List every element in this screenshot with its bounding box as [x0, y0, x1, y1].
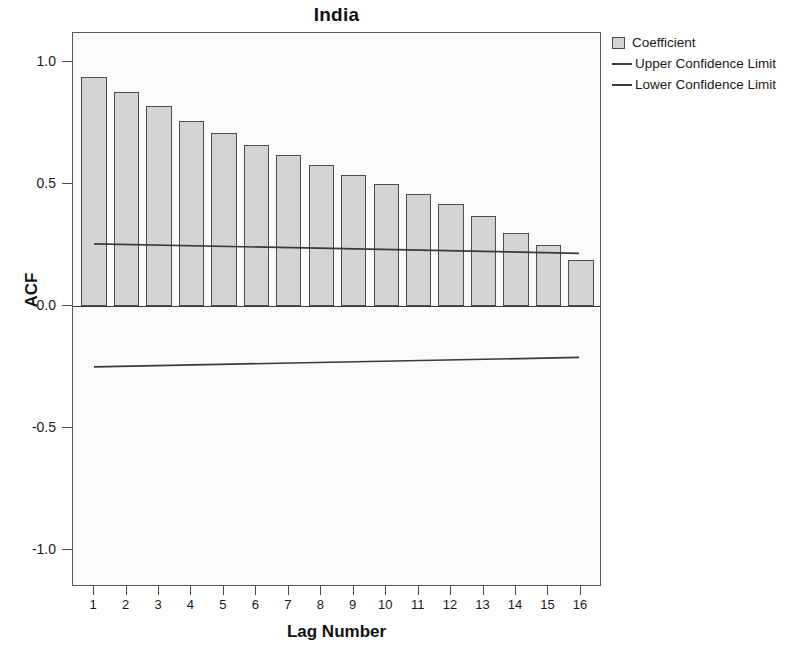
acf-bar: [114, 92, 139, 307]
y-axis-tick-label: 0.0: [0, 297, 56, 313]
legend-item-label: Upper Confidence Limit: [635, 56, 776, 71]
acf-bar: [146, 106, 171, 306]
x-axis-tick-label: 4: [175, 597, 205, 612]
acf-bar: [568, 260, 593, 306]
y-axis-tick: [62, 549, 72, 550]
legend-item: Upper Confidence Limit: [612, 54, 787, 73]
chart-legend: CoefficientUpper Confidence LimitLower C…: [612, 33, 787, 96]
x-axis-tick: [353, 586, 354, 595]
x-axis-tick: [158, 586, 159, 595]
legend-item: Coefficient: [612, 33, 787, 52]
y-axis-title: ACF: [22, 230, 42, 350]
x-axis-tick-label: 14: [500, 597, 530, 612]
x-axis-tick-label: 9: [338, 597, 368, 612]
acf-bar: [471, 216, 496, 306]
x-axis-tick: [385, 586, 386, 595]
x-axis-tick: [93, 586, 94, 595]
x-axis-tick-label: 7: [273, 597, 303, 612]
x-axis-tick-label: 15: [532, 597, 562, 612]
acf-bar: [536, 245, 561, 306]
acf-bar: [438, 204, 463, 307]
acf-bar: [179, 121, 204, 306]
legend-item-label: Coefficient: [632, 35, 696, 50]
x-axis-tick-label: 13: [468, 597, 498, 612]
acf-bar: [406, 194, 431, 306]
x-axis-tick: [255, 586, 256, 595]
box-swatch-icon: [612, 37, 625, 49]
y-axis-tick-label: -0.5: [0, 419, 56, 435]
x-axis-tick: [288, 586, 289, 595]
x-axis-tick: [418, 586, 419, 595]
x-axis-tick-label: 10: [370, 597, 400, 612]
x-axis-tick: [450, 586, 451, 595]
x-axis-tick-label: 11: [403, 597, 433, 612]
acf-bar: [211, 133, 236, 306]
acf-bar: [276, 155, 301, 306]
y-axis-tick-label: -1.0: [0, 541, 56, 557]
plot-area: [72, 32, 601, 586]
legend-item: Lower Confidence Limit: [612, 75, 787, 94]
x-axis-tick-label: 8: [305, 597, 335, 612]
x-axis-tick: [223, 586, 224, 595]
lower-confidence-limit-line: [94, 357, 579, 366]
x-axis-title: Lag Number: [72, 622, 601, 642]
line-swatch-icon: [612, 84, 632, 86]
y-axis-tick-label: 0.5: [0, 175, 56, 191]
x-axis-tick-label: 16: [565, 597, 595, 612]
x-axis-tick: [483, 586, 484, 595]
x-axis-tick-label: 1: [78, 597, 108, 612]
x-axis-tick-label: 2: [111, 597, 141, 612]
acf-bar: [309, 165, 334, 307]
plot-inner: [73, 33, 600, 585]
y-axis-tick: [62, 305, 72, 306]
acf-bar: [503, 233, 528, 306]
x-axis-tick: [547, 586, 548, 595]
x-axis-tick-label: 6: [240, 597, 270, 612]
acf-bar: [244, 145, 269, 306]
y-axis-tick: [62, 61, 72, 62]
x-axis-tick: [126, 586, 127, 595]
y-axis-tick-label: 1.0: [0, 53, 56, 69]
y-axis-tick: [62, 427, 72, 428]
x-axis-tick: [320, 586, 321, 595]
x-axis-tick-label: 3: [143, 597, 173, 612]
x-axis-tick: [190, 586, 191, 595]
acf-bar: [341, 175, 366, 307]
acf-chart-figure: India ACF 1.00.50.0-0.5-1.0 123456789101…: [0, 0, 789, 651]
acf-bar: [81, 77, 106, 306]
acf-bar: [374, 184, 399, 306]
zero-baseline: [73, 306, 600, 307]
x-axis-tick: [580, 586, 581, 595]
x-axis-tick-label: 5: [208, 597, 238, 612]
x-axis-tick: [515, 586, 516, 595]
y-axis-tick: [62, 183, 72, 184]
legend-item-label: Lower Confidence Limit: [635, 77, 776, 92]
line-swatch-icon: [612, 63, 632, 65]
x-axis-tick-label: 12: [435, 597, 465, 612]
chart-title: India: [72, 4, 601, 26]
